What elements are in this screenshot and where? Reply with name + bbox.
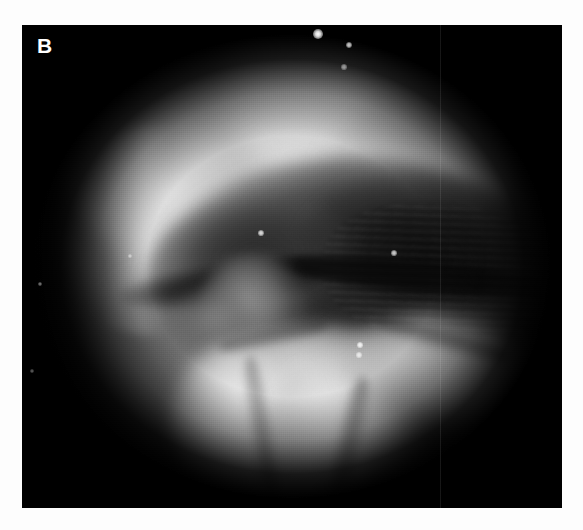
panel-label-b: B [37,35,53,56]
endoscopic-photograph-panel: B [22,25,562,508]
film-grain-overlay [22,25,562,508]
photo-scene [22,25,562,508]
figure-root: B [0,0,583,530]
